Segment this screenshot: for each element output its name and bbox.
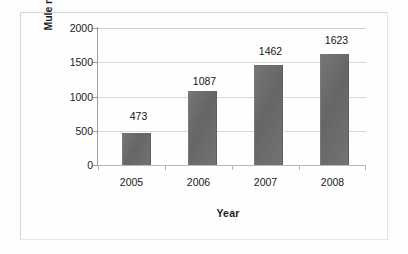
bar-value-label-2007: 1462: [230, 45, 311, 57]
y-axis-tick-labels: 2000 1500 1000 500 0: [46, 0, 93, 254]
x-axis-label-2007: 2007: [232, 176, 299, 188]
bar-value-label-2008: 1623: [296, 34, 377, 46]
x-tick-mark-start: [98, 166, 99, 170]
x-tick-mark-end: [365, 166, 366, 170]
bar-2005[interactable]: [122, 133, 151, 165]
bar-2007[interactable]: [254, 65, 283, 165]
x-tick-mark-1: [165, 166, 166, 170]
x-tick-mark-3: [299, 166, 300, 170]
bar-value-label-2006: 1087: [164, 75, 245, 87]
bar-2006[interactable]: [188, 91, 217, 166]
chart-figure: Mule recruitment advert 2000 1500 1000 5…: [0, 0, 408, 254]
y-tick-label-0: 0: [49, 159, 93, 171]
x-axis-label-2006: 2006: [165, 176, 232, 188]
y-tick-label-2000: 2000: [49, 22, 93, 34]
bar-value-label-2005: 473: [98, 110, 179, 122]
x-axis-title: Year: [98, 207, 358, 219]
x-axis-label-2005: 2005: [98, 176, 165, 188]
gridline-2000: [98, 28, 366, 29]
y-tick-label-500: 500: [49, 125, 93, 137]
y-tick-label-1000: 1000: [49, 91, 93, 103]
y-tick-label-1500: 1500: [49, 56, 93, 68]
bar-2008[interactable]: [320, 54, 349, 165]
x-axis-label-2008: 2008: [299, 176, 366, 188]
x-tick-mark-2: [232, 166, 233, 170]
